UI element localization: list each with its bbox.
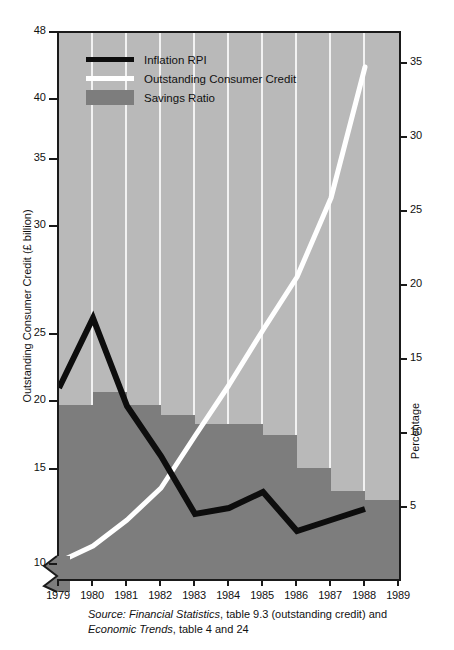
legend-key-line-icon [86,50,134,69]
left-tick-label-48: 48 [0,24,46,36]
legend-key-white-line-icon [86,69,134,88]
left-tick-48 [49,31,57,33]
left-axis-title: Outstanding Consumer Credit (£ billion) [21,191,33,421]
x-tick-1981 [125,579,127,586]
left-tick-label-40: 40 [0,91,46,103]
legend-item-savings: Savings Ratio [86,88,296,107]
x-tick-1984 [227,579,229,586]
x-tick-1988 [363,579,365,586]
right-tick-30 [399,136,407,138]
right-tick-label-15: 15 [410,351,422,363]
inflation-line [59,318,365,531]
right-tick-15 [399,358,407,360]
right-tick-label-25: 25 [410,203,422,215]
left-tick-10 [49,563,57,565]
left-tick-25 [49,333,57,335]
source-publication-1: Financial Statistics [129,608,220,620]
x-tick-1980 [91,579,93,586]
legend-key-swatch-icon [86,88,134,107]
credit-line [59,67,365,562]
source-mid: , table 9.3 (outstanding credit) and [220,608,387,620]
legend: Inflation RPI Outstanding Consumer Credi… [86,50,296,107]
x-tick-1985 [261,579,263,586]
legend-label-savings: Savings Ratio [144,92,215,104]
right-axis-title: Percentage [409,371,421,491]
legend-item-inflation: Inflation RPI [86,50,296,69]
right-tick-10 [399,432,407,434]
left-tick-30 [49,225,57,227]
x-axis-line [57,579,401,581]
legend-label-credit: Outstanding Consumer Credit [144,73,296,85]
right-tick-label-30: 30 [410,129,422,141]
source-prefix: Source: [88,608,129,620]
source-suffix: , table 4 and 24 [173,623,249,635]
chart-figure: 48 40 35 30 25 20 15 10 Outstanding Cons… [0,0,454,650]
right-tick-label-20: 20 [410,277,422,289]
left-tick-label-10: 10 [0,556,46,568]
source-note: Source: Financial Statistics, table 9.3 … [88,607,438,637]
left-tick-15 [49,468,57,470]
x-tick-1982 [159,579,161,586]
x-tick-1989 [397,579,399,586]
legend-label-inflation: Inflation RPI [144,54,207,66]
left-tick-35 [49,158,57,160]
left-tick-20 [49,400,57,402]
x-tick-1986 [295,579,297,586]
x-tick-1983 [193,579,195,586]
axis-break-marker [44,556,70,592]
left-tick-40 [49,98,57,100]
x-tick-label-1989: 1989 [378,589,418,601]
x-tick-1987 [329,579,331,586]
right-tick-35 [399,62,407,64]
plot-area [57,31,401,581]
x-tick-1979 [57,579,59,586]
right-tick-25 [399,210,407,212]
right-tick-label-35: 35 [410,55,422,67]
right-tick-20 [399,284,407,286]
line-series-overlay [59,33,399,581]
legend-item-credit: Outstanding Consumer Credit [86,69,296,88]
source-publication-2: Economic Trends [88,623,173,635]
right-tick-label-5: 5 [410,499,416,511]
right-tick-5 [399,506,407,508]
left-tick-label-35: 35 [0,151,46,163]
left-tick-label-15: 15 [0,461,46,473]
